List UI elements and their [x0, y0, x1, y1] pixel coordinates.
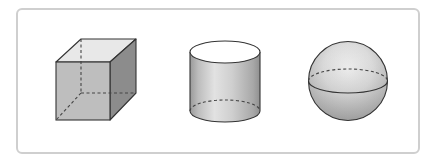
cylinder-shape: [190, 41, 260, 122]
sphere-shape: [309, 42, 388, 121]
cylinder-top-face: [190, 41, 260, 63]
cube-shape: [56, 39, 136, 120]
solids-diagram: [0, 0, 444, 165]
